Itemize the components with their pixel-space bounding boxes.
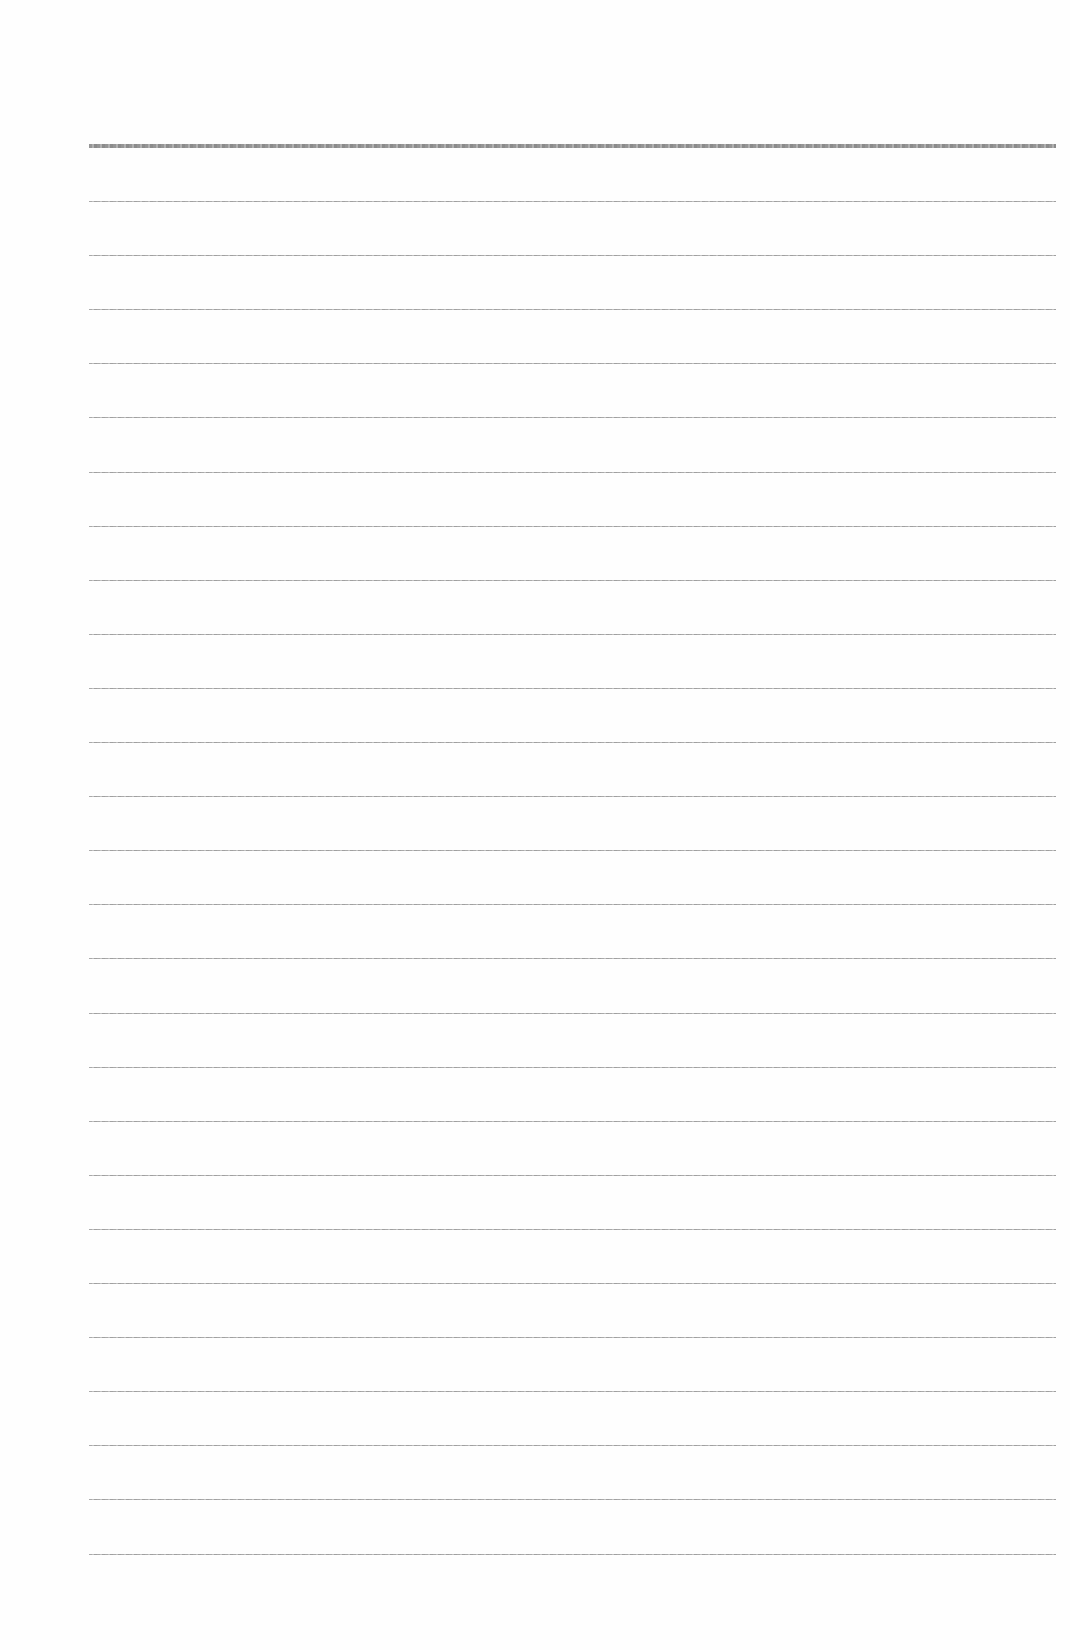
header-rule-line [89,144,1056,148]
ruled-line [89,634,1056,635]
ruled-line [89,1391,1056,1392]
ruled-line [89,580,1056,581]
ruled-line [89,1337,1056,1338]
ruled-line [89,201,1056,202]
ruled-line [89,1445,1056,1446]
ruled-line [89,958,1056,959]
ruled-line [89,904,1056,905]
ruled-line [89,363,1056,364]
ruled-line [89,1121,1056,1122]
lined-paper-page [0,0,1070,1650]
ruled-line [89,1067,1056,1068]
ruled-line [89,472,1056,473]
ruled-line [89,309,1056,310]
ruled-line [89,1013,1056,1014]
ruled-line [89,417,1056,418]
ruled-line [89,526,1056,527]
ruled-line [89,688,1056,689]
ruled-line [89,255,1056,256]
ruled-line [89,1499,1056,1500]
ruled-line [89,850,1056,851]
ruled-line [89,1229,1056,1230]
ruled-line [89,1554,1056,1555]
ruled-line [89,796,1056,797]
ruled-line [89,1175,1056,1176]
ruled-line [89,1283,1056,1284]
ruled-line [89,742,1056,743]
